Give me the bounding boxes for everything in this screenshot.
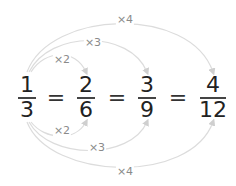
fraction-1-numerator: 1 [20,74,34,96]
top-x4-label: ×4 [116,14,134,26]
top-x2-label: ×2 [53,54,71,66]
bottom-x2-label: ×2 [53,125,71,137]
fraction-3-denominator: 9 [140,99,154,121]
fraction-2-denominator: 6 [79,99,93,121]
top-x3-label: ×3 [84,37,102,49]
fraction-3-numerator: 3 [140,74,154,96]
equals-sign-2: = [108,87,126,109]
equals-sign-3: = [169,87,187,109]
fraction-1-denominator: 3 [20,99,34,121]
equals-sign-1: = [47,87,65,109]
equivalent-fractions-diagram: ×4 ×3 ×2 1 3 = 2 6 = 3 9 = 4 12 ×2 ×3 ×4 [0,0,236,186]
fraction-4-numerator: 4 [206,74,220,96]
bottom-x3-label: ×3 [88,142,106,154]
fraction-2-numerator: 2 [79,74,93,96]
fraction-4-denominator: 12 [199,99,227,121]
bottom-x4-label: ×4 [116,166,134,178]
